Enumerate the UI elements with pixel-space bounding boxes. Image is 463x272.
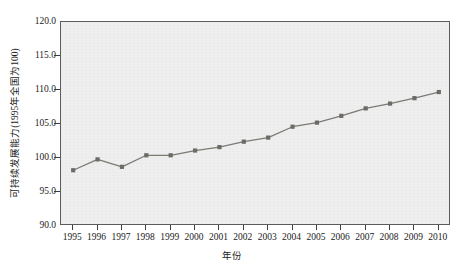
x-axis-tick-mark	[438, 225, 439, 230]
y-axis-tick-label: 120.0	[16, 16, 56, 26]
y-axis-tick-label: 90.0	[16, 220, 56, 230]
y-axis-tick-label: 105.0	[16, 118, 56, 128]
y-axis-tick-label: 95.0	[16, 186, 56, 196]
series-markers	[71, 90, 441, 172]
x-axis-tick-mark	[194, 225, 195, 230]
y-axis-tick-mark	[54, 157, 60, 158]
data-point-marker	[437, 90, 441, 94]
x-axis-tick-mark	[292, 225, 293, 230]
x-axis-tick-mark	[267, 225, 268, 230]
data-point-marker	[71, 168, 75, 172]
data-point-marker	[217, 145, 221, 149]
data-point-marker	[315, 121, 319, 125]
x-axis-tick-mark	[121, 225, 122, 230]
data-point-marker	[290, 125, 294, 129]
line-series-sustainability	[61, 22, 451, 226]
data-point-marker	[364, 106, 368, 110]
y-axis-tick-mark	[54, 89, 60, 90]
plot-area	[60, 21, 450, 225]
x-axis-title: 年份	[0, 248, 463, 262]
x-axis-tick-mark	[170, 225, 171, 230]
data-point-marker	[144, 153, 148, 157]
x-axis-tick-mark	[97, 225, 98, 230]
y-axis-tick-label: 115.0	[16, 50, 56, 60]
data-point-marker	[120, 165, 124, 169]
data-point-marker	[339, 114, 343, 118]
data-point-marker	[412, 96, 416, 100]
series-line-path	[73, 92, 439, 170]
x-axis-tick-mark	[218, 225, 219, 230]
data-point-marker	[266, 136, 270, 140]
x-axis-tick-mark	[145, 225, 146, 230]
y-axis-tick-label: 110.0	[16, 84, 56, 94]
x-axis-tick-mark	[413, 225, 414, 230]
data-point-marker	[193, 148, 197, 152]
x-axis-tick-mark	[243, 225, 244, 230]
y-axis-tick-mark	[54, 191, 60, 192]
y-axis-tick-labels: 120.0115.0110.0105.0100.095.090.0	[12, 0, 56, 272]
x-axis-tick-mark	[340, 225, 341, 230]
x-axis-tick-mark	[72, 225, 73, 230]
data-point-marker	[95, 157, 99, 161]
x-axis-tick-label: 2010	[418, 232, 458, 243]
data-point-marker	[388, 102, 392, 106]
x-axis-tick-mark	[316, 225, 317, 230]
data-point-marker	[242, 140, 246, 144]
x-axis-tick-mark	[365, 225, 366, 230]
y-axis-tick-label: 100.0	[16, 152, 56, 162]
x-axis-tick-mark	[389, 225, 390, 230]
y-axis-tick-mark	[54, 123, 60, 124]
y-axis-tick-mark	[54, 55, 60, 56]
chart-figure: 可持续发展能力(1995年全国为100) 120.0115.0110.0105.…	[0, 0, 463, 272]
data-point-marker	[169, 153, 173, 157]
